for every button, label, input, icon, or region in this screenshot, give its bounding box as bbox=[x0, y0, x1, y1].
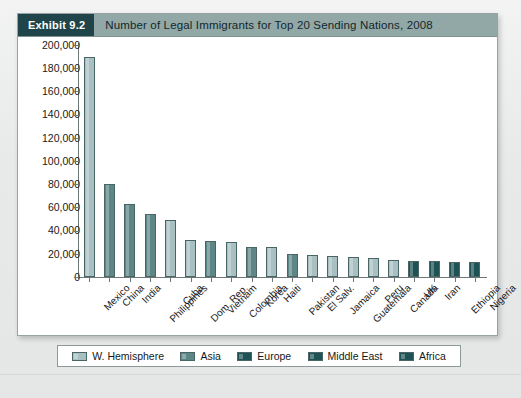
legend-label: Asia bbox=[200, 350, 220, 362]
x-axis-tick-mark bbox=[109, 278, 110, 282]
bar-slot bbox=[465, 45, 485, 277]
chart-bar bbox=[307, 255, 318, 277]
x-axis-labels: MexicoChinaIndiaPhilippinesCubaDom. Rep.… bbox=[79, 283, 485, 333]
x-axis-tick-mark bbox=[394, 278, 395, 282]
chart-bar bbox=[449, 262, 460, 277]
bar-slot bbox=[323, 45, 343, 277]
x-axis-tick-mark bbox=[89, 278, 90, 282]
bar-slot bbox=[79, 45, 99, 277]
bar-slot bbox=[221, 45, 241, 277]
x-axis-tick-mark bbox=[231, 278, 232, 282]
page-bottom-rule bbox=[0, 374, 521, 375]
bar-slot bbox=[160, 45, 180, 277]
chart-bar bbox=[205, 241, 216, 277]
chart-bar bbox=[408, 261, 419, 277]
x-axis-tick-mark bbox=[414, 278, 415, 282]
bar-slot bbox=[120, 45, 140, 277]
legend-item: Africa bbox=[399, 350, 446, 362]
x-axis-tick-mark bbox=[475, 278, 476, 282]
x-axis-tick-mark bbox=[373, 278, 374, 282]
x-axis-tick-mark bbox=[170, 278, 171, 282]
exhibit-header: Exhibit 9.2 Number of Legal Immigrants f… bbox=[18, 14, 497, 37]
chart-bar bbox=[145, 214, 156, 277]
legend-label: Europe bbox=[257, 350, 291, 362]
legend-item: W. Hemisphere bbox=[72, 350, 164, 362]
bar-slot bbox=[302, 45, 322, 277]
x-axis-tick-mark bbox=[353, 278, 354, 282]
x-axis-tick-label: Iran bbox=[443, 283, 462, 302]
bar-slot bbox=[282, 45, 302, 277]
chart-bar bbox=[388, 260, 399, 277]
legend-swatch bbox=[308, 352, 323, 361]
chart-bar bbox=[226, 242, 237, 277]
exhibit-card: Exhibit 9.2 Number of Legal Immigrants f… bbox=[17, 13, 498, 336]
chart-legend: W. HemisphereAsiaEuropeMiddle EastAfrica bbox=[57, 345, 461, 367]
x-axis-tick-mark bbox=[455, 278, 456, 282]
chart-bar bbox=[84, 57, 95, 277]
chart-bar bbox=[327, 256, 338, 277]
x-axis-line bbox=[78, 277, 487, 278]
legend-item: Middle East bbox=[308, 350, 383, 362]
bar-slot bbox=[99, 45, 119, 277]
legend-swatch bbox=[237, 352, 252, 361]
chart-bar bbox=[429, 261, 440, 277]
legend-swatch bbox=[72, 352, 87, 361]
bar-slot bbox=[241, 45, 261, 277]
legend-label: W. Hemisphere bbox=[92, 350, 164, 362]
x-axis-tick-mark bbox=[130, 278, 131, 282]
bar-slot bbox=[384, 45, 404, 277]
x-axis-tick-mark bbox=[191, 278, 192, 282]
chart-bar bbox=[246, 247, 257, 277]
chart-bar bbox=[124, 204, 135, 277]
x-axis-tick-mark bbox=[252, 278, 253, 282]
chart-bar bbox=[266, 247, 277, 277]
chart-bar bbox=[165, 220, 176, 277]
x-axis-tick-mark bbox=[272, 278, 273, 282]
x-axis-tick-mark bbox=[312, 278, 313, 282]
bars-layer bbox=[79, 45, 485, 277]
bar-slot bbox=[201, 45, 221, 277]
bar-slot bbox=[404, 45, 424, 277]
chart-bar bbox=[368, 258, 379, 277]
x-axis-tick-mark bbox=[292, 278, 293, 282]
chart-bar bbox=[104, 184, 115, 277]
legend-swatch bbox=[399, 352, 414, 361]
x-axis-tick-mark bbox=[211, 278, 212, 282]
x-axis-tick-mark bbox=[434, 278, 435, 282]
legend-label: Middle East bbox=[328, 350, 383, 362]
bar-slot bbox=[444, 45, 464, 277]
legend-item: Europe bbox=[237, 350, 291, 362]
chart-bar bbox=[185, 240, 196, 277]
bar-slot bbox=[343, 45, 363, 277]
bar-slot bbox=[262, 45, 282, 277]
legend-item: Asia bbox=[180, 350, 220, 362]
legend-label: Africa bbox=[419, 350, 446, 362]
chart-plot-container: 200,000180,000160,000140,000120,000100,0… bbox=[18, 37, 497, 337]
exhibit-title: Number of Legal Immigrants for Top 20 Se… bbox=[94, 14, 433, 36]
bar-slot bbox=[424, 45, 444, 277]
x-axis-tick-mark bbox=[150, 278, 151, 282]
bar-slot bbox=[181, 45, 201, 277]
chart-bar bbox=[469, 262, 480, 277]
chart-bar bbox=[348, 257, 359, 277]
legend-swatch bbox=[180, 352, 195, 361]
exhibit-number-tag: Exhibit 9.2 bbox=[18, 14, 94, 36]
bar-slot bbox=[363, 45, 383, 277]
y-axis-tick-mark bbox=[74, 277, 79, 278]
chart-bar bbox=[287, 254, 298, 277]
bar-slot bbox=[140, 45, 160, 277]
